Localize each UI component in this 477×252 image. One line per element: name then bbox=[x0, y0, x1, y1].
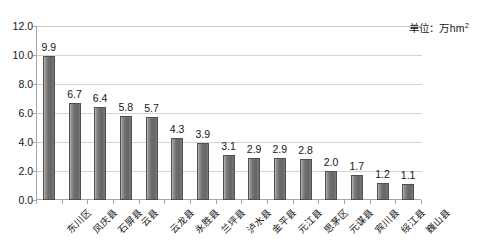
x-axis-category-label[interactable]: 元江县 bbox=[294, 205, 325, 236]
x-axis-tick-mark bbox=[344, 200, 345, 204]
y-axis-tick-label: 0.0 bbox=[1, 194, 33, 206]
x-axis-tick-mark bbox=[164, 200, 165, 204]
bar-value-label: 6.4 bbox=[93, 92, 108, 104]
bar[interactable] bbox=[223, 155, 235, 200]
y-axis-tick-label: 10.0 bbox=[1, 49, 33, 61]
bar-value-label: 9.9 bbox=[42, 41, 57, 53]
bar[interactable] bbox=[43, 56, 55, 200]
x-axis-category-label[interactable]: 云县 bbox=[137, 205, 161, 229]
bar[interactable] bbox=[248, 158, 260, 200]
y-axis-labels: 12.010.08.06.04.02.00.0 bbox=[0, 26, 33, 200]
bar[interactable] bbox=[402, 184, 414, 200]
x-axis-tick-mark bbox=[267, 200, 268, 204]
x-axis-category-label[interactable]: 绥江县 bbox=[396, 205, 427, 236]
x-axis-category-label[interactable]: 元谋县 bbox=[345, 205, 376, 236]
bar-value-label: 2.9 bbox=[247, 143, 262, 155]
bar-value-label: 1.2 bbox=[375, 168, 390, 180]
bar-value-label: 3.9 bbox=[196, 128, 211, 140]
x-axis-tick-mark bbox=[395, 200, 396, 204]
x-axis-tick-mark bbox=[87, 200, 88, 204]
x-axis-category-label[interactable]: 兰坪县 bbox=[217, 205, 248, 236]
x-axis-tick-mark bbox=[318, 200, 319, 204]
y-axis-tick-label: 12.0 bbox=[1, 20, 33, 32]
bar-value-label: 1.7 bbox=[350, 160, 365, 172]
y-axis-tick-label: 2.0 bbox=[1, 165, 33, 177]
x-axis-tick-mark bbox=[421, 200, 422, 204]
x-axis-category-label[interactable]: 云龙县 bbox=[165, 205, 196, 236]
x-axis-category-label[interactable]: 永胜县 bbox=[191, 205, 222, 236]
x-axis-category-label[interactable]: 思茅区 bbox=[319, 205, 350, 236]
x-axis-tick-mark bbox=[62, 200, 63, 204]
bar[interactable] bbox=[325, 171, 337, 200]
bar-value-label: 2.8 bbox=[298, 144, 313, 156]
bar[interactable] bbox=[120, 116, 132, 200]
y-axis-tick-label: 6.0 bbox=[1, 107, 33, 119]
bar[interactable] bbox=[69, 103, 81, 200]
bar-value-label: 2.0 bbox=[324, 156, 339, 168]
bar-value-label: 6.7 bbox=[67, 88, 82, 100]
x-axis-category-label[interactable]: 巍山县 bbox=[422, 205, 453, 236]
bar-value-label: 3.1 bbox=[221, 140, 236, 152]
x-axis-tick-mark bbox=[139, 200, 140, 204]
bar-value-label: 2.9 bbox=[273, 143, 288, 155]
bar[interactable] bbox=[197, 143, 209, 200]
bar[interactable] bbox=[94, 107, 106, 200]
bar[interactable] bbox=[300, 159, 312, 200]
x-axis-tick-mark bbox=[216, 200, 217, 204]
bar-value-label: 5.7 bbox=[144, 102, 159, 114]
bar[interactable] bbox=[171, 138, 183, 200]
bar[interactable] bbox=[351, 175, 363, 200]
x-axis-category-label[interactable]: 金平县 bbox=[268, 205, 299, 236]
bar-chart: 单位：万hm2 12.010.08.06.04.02.00.0 9.96.76.… bbox=[0, 0, 477, 252]
x-axis-category-label[interactable]: 宾川县 bbox=[371, 205, 402, 236]
x-axis-category-label[interactable]: 泸水县 bbox=[242, 205, 273, 236]
bars-layer: 9.96.76.45.85.74.33.93.12.92.92.82.01.71… bbox=[36, 26, 421, 200]
bar-value-label: 5.8 bbox=[119, 101, 134, 113]
x-axis-category-label[interactable]: 凤庆县 bbox=[88, 205, 119, 236]
x-axis-tick-mark bbox=[241, 200, 242, 204]
x-axis-tick-mark bbox=[36, 200, 37, 204]
x-axis-tick-mark bbox=[370, 200, 371, 204]
bar[interactable] bbox=[377, 183, 389, 200]
x-axis-tick-mark bbox=[190, 200, 191, 204]
x-axis-category-label[interactable]: 东川区 bbox=[63, 205, 94, 236]
y-axis-tick-label: 8.0 bbox=[1, 78, 33, 90]
x-axis-tick-mark bbox=[113, 200, 114, 204]
x-axis-tick-mark bbox=[293, 200, 294, 204]
bar[interactable] bbox=[146, 117, 158, 200]
bar-value-label: 1.1 bbox=[401, 169, 416, 181]
y-axis-tick-label: 4.0 bbox=[1, 136, 33, 148]
unit-annotation-superscript: 2 bbox=[465, 21, 469, 30]
bar-value-label: 4.3 bbox=[170, 123, 185, 135]
bar[interactable] bbox=[274, 158, 286, 200]
